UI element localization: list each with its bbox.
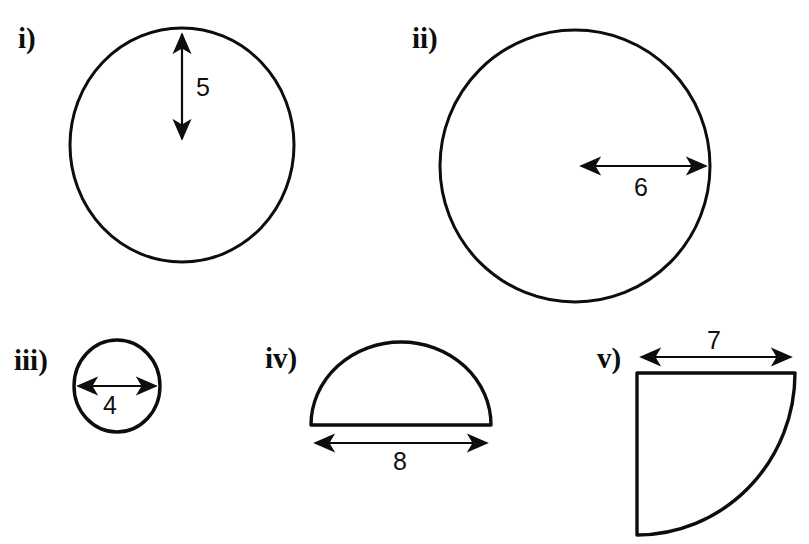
shape-label-ii: ii) bbox=[412, 22, 438, 55]
figure-canvas: i) 5 ii) 6 iii) 4 iv) bbox=[0, 0, 809, 544]
dimension-value-iii: 4 bbox=[103, 391, 117, 419]
shape-label-i: i) bbox=[18, 22, 36, 55]
dimension-value-iv: 8 bbox=[393, 447, 407, 475]
semicircle-outline-iv bbox=[311, 342, 491, 425]
shape-label-iv: iv) bbox=[265, 342, 297, 375]
shape-group-i: i) 5 bbox=[18, 22, 294, 262]
shape-label-v: v) bbox=[597, 342, 621, 375]
shape-group-iv: iv) 8 bbox=[265, 342, 491, 475]
shape-group-ii: ii) 6 bbox=[412, 22, 710, 302]
shape-label-iii: iii) bbox=[14, 344, 48, 377]
dimension-value-i: 5 bbox=[196, 73, 210, 101]
dimension-value-v: 7 bbox=[707, 326, 721, 354]
geometry-figure: i) 5 ii) 6 iii) 4 iv) bbox=[0, 0, 809, 544]
shape-group-v: v) 7 bbox=[597, 326, 795, 535]
dimension-value-ii: 6 bbox=[634, 173, 648, 201]
shape-group-iii: iii) 4 bbox=[14, 340, 160, 432]
quarter-circle-outline-v bbox=[637, 373, 795, 535]
